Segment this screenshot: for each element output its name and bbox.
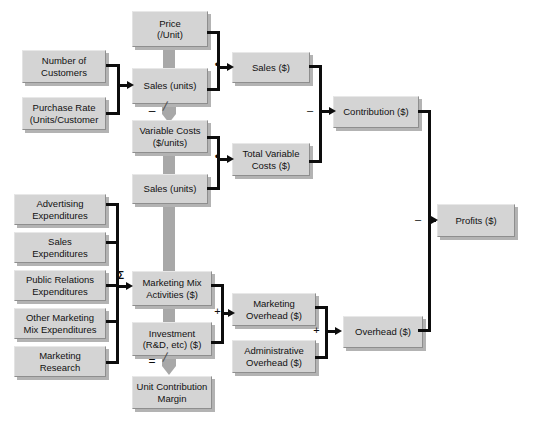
node-sales-dollars: Sales ($) xyxy=(232,52,310,83)
node-marketing-research: Marketing Research xyxy=(14,346,106,377)
node-sales-units-1: Sales (units) xyxy=(132,68,208,104)
arrowhead-to-marketing-mix xyxy=(126,282,133,290)
thick-link-varcost-sales xyxy=(163,152,175,174)
operator-multiply-sales-dollars: • xyxy=(212,59,222,70)
bracket-contribution-vertical xyxy=(319,65,322,163)
arrowhead-to-sales-units-1 xyxy=(127,81,134,89)
operator-sigma-marketing-mix: Σ xyxy=(115,270,127,281)
node-administrative-overhead: Administrative Overhead ($) xyxy=(232,340,316,373)
arrowhead-to-profits xyxy=(431,216,438,224)
node-variable-costs: Variable Costs ($/units) xyxy=(132,120,208,153)
operator-minus-contribution: – xyxy=(304,105,316,116)
operator-multiply-total-var-costs: • xyxy=(212,151,222,162)
node-unit-contribution-margin: Unit Contribution Margin xyxy=(132,376,212,409)
node-overhead: Overhead ($) xyxy=(343,316,423,348)
arrowhead-to-marketing-overhead xyxy=(228,309,235,317)
operator-equals-unit-contribution: = xyxy=(146,356,158,367)
node-total-variable-costs: Total Variable Costs ($) xyxy=(232,143,310,176)
operator-minus-profits: – xyxy=(412,214,424,225)
node-number-of-customers: Number of Customers xyxy=(22,50,106,83)
flowchart-diagram: Price (/Unit) Sales (units) Variable Cos… xyxy=(0,0,542,432)
operator-plus-overhead: + xyxy=(311,325,322,336)
node-marketing-mix-activities: Marketing Mix Activities ($) xyxy=(132,271,212,306)
node-marketing-overhead: Marketing Overhead ($) xyxy=(232,293,316,326)
node-price: Price (/Unit) xyxy=(132,11,208,47)
bracket-customers-vertical xyxy=(117,64,120,115)
node-investment: Investment (R&D, etc) ($) xyxy=(132,322,212,356)
node-profits: Profits ($) xyxy=(437,204,515,237)
node-public-relations-expenditures: Public Relations Expenditures xyxy=(14,270,106,301)
node-sales-expenditures: Sales Expenditures xyxy=(14,232,106,263)
operator-minus-variable-costs: – xyxy=(146,106,158,117)
arrowhead-to-total-var-costs xyxy=(227,155,234,163)
thick-link-sales-mktmix xyxy=(163,203,175,271)
arrowhead-to-sales-dollars xyxy=(227,63,234,71)
node-purchase-rate: Purchase Rate (Units/Customer xyxy=(22,97,106,130)
thick-link-mktmix-investment xyxy=(163,305,175,323)
node-advertising-expenditures: Advertising Expenditures xyxy=(14,194,106,225)
operator-plus-marketing-overhead: + xyxy=(212,306,223,317)
arrowhead-to-overhead xyxy=(335,327,342,335)
node-contribution: Contribution ($) xyxy=(333,96,419,128)
arrowhead-to-contribution xyxy=(329,107,336,115)
node-sales-units-2: Sales (units) xyxy=(132,174,208,204)
bracket-inputs-vertical xyxy=(116,203,119,364)
thick-link-price-sales xyxy=(163,46,175,68)
node-other-marketing-mix-expenditures: Other Marketing Mix Expenditures xyxy=(14,308,106,339)
